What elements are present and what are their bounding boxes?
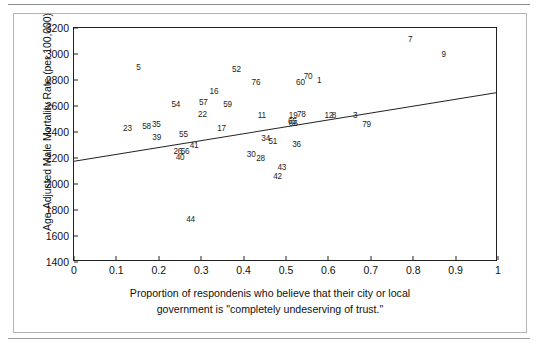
y-axis-title-wrapper: Age-Adjusted Male Mortality Rate (per 10… [18, 20, 40, 270]
x-tick-mark [116, 256, 117, 260]
data-point-label: 17 [217, 125, 226, 133]
data-point-label: 58 [142, 123, 151, 131]
x-tick-mark [286, 256, 287, 260]
y-tick-mark [74, 184, 78, 185]
x-tick-mark [498, 256, 499, 260]
y-tick-mark [74, 106, 78, 107]
data-point-label: 51 [268, 138, 277, 146]
x-tick-mark [158, 256, 159, 260]
data-point-label: 22 [198, 111, 207, 119]
y-tick-label: 2000 [46, 179, 69, 190]
y-tick-mark [74, 80, 78, 81]
y-tick-mark [74, 28, 78, 29]
y-tick-label: 1600 [46, 231, 69, 242]
x-tick-label: 0.2 [151, 265, 166, 276]
data-point-label: 78 [297, 111, 306, 119]
y-tick-label: 2400 [46, 127, 69, 138]
y-tick-mark [74, 132, 78, 133]
data-point-label: 35 [152, 121, 161, 129]
data-point-label: 54 [171, 101, 180, 109]
data-point-label: 11 [258, 112, 266, 120]
x-tick-mark [201, 256, 202, 260]
y-tick-label: 3200 [46, 23, 69, 34]
figure-page: Age-Adjusted Male Mortality Rate (per 10… [0, 0, 538, 344]
data-point-label: 66 [289, 120, 298, 128]
data-point-label: 8 [332, 112, 336, 120]
data-point-label: 43 [277, 164, 286, 172]
x-tick-mark [328, 256, 329, 260]
x-tick-label: 0.6 [321, 265, 336, 276]
data-point-label: 40 [176, 154, 185, 162]
data-point-label: 16 [210, 88, 219, 96]
x-tick-mark [455, 256, 456, 260]
y-tick-label: 3000 [46, 49, 69, 60]
data-point-label: 5 [136, 64, 140, 72]
data-point-label: 42 [273, 173, 282, 181]
data-point-label: 79 [362, 121, 371, 129]
x-tick-label: 0.7 [363, 265, 378, 276]
page-bottom-rule [8, 338, 530, 339]
y-tick-mark [74, 210, 78, 211]
x-axis-caption-line-1: Proportion of respondenis who believe th… [40, 285, 500, 301]
y-tick-label: 2600 [46, 101, 69, 112]
data-point-label: 30 [247, 151, 256, 159]
x-tick-label: 0 [71, 265, 77, 276]
data-point-label: 36 [292, 141, 301, 149]
data-point-label: 57 [199, 99, 208, 107]
x-tick-label: 0.9 [448, 265, 463, 276]
y-tick-mark [74, 54, 78, 55]
x-tick-label: 0.1 [109, 265, 124, 276]
data-point-label: 41 [190, 142, 199, 150]
data-point-label: 3 [353, 112, 357, 120]
page-top-rule [8, 4, 530, 5]
y-tick-label: 1400 [46, 257, 69, 268]
data-point-label: 60 [296, 79, 305, 87]
x-tick-mark [74, 256, 75, 260]
data-point-label: 52 [232, 65, 241, 73]
data-point-label: 44 [186, 216, 195, 224]
x-tick-label: 0.4 [236, 265, 251, 276]
data-point-label: 59 [223, 101, 232, 109]
x-tick-mark [243, 256, 244, 260]
plot-area: 5527970160761657545922111978128365663579… [73, 27, 497, 261]
x-tick-mark [413, 256, 414, 260]
x-tick-label: 1 [495, 265, 501, 276]
y-tick-mark [74, 236, 78, 237]
x-axis-caption-line-2: government is "completely undeserving of… [40, 301, 500, 317]
y-tick-label: 1800 [46, 205, 69, 216]
data-point-label: 23 [123, 125, 132, 133]
data-point-label: 9 [442, 51, 446, 59]
x-tick-label: 0.8 [406, 265, 421, 276]
data-point-label: 76 [252, 79, 261, 87]
x-axis-caption: Proportion of respondenis who believe th… [40, 285, 500, 317]
y-tick-mark [74, 262, 78, 263]
y-tick-label: 2200 [46, 153, 69, 164]
y-tick-label: 2800 [46, 75, 69, 86]
x-tick-mark [370, 256, 371, 260]
data-point-label: 39 [152, 134, 161, 142]
data-point-label: 7 [408, 36, 412, 44]
data-point-label: 28 [256, 155, 265, 163]
x-tick-label: 0.5 [279, 265, 294, 276]
x-tick-label: 0.3 [194, 265, 209, 276]
plot-canvas: 5527970160761657545922111978128365663579… [74, 28, 496, 260]
data-point-label: 55 [179, 130, 188, 138]
data-point-label: 1 [317, 77, 321, 85]
y-tick-mark [74, 158, 78, 159]
